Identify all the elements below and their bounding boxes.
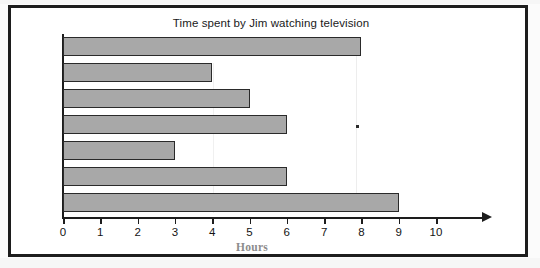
bar-wed xyxy=(63,115,287,134)
x-tick-4 xyxy=(212,218,214,224)
x-tick-1 xyxy=(100,218,102,224)
x-tick-label-2: 2 xyxy=(123,226,153,238)
x-tick-label-5: 5 xyxy=(235,226,265,238)
x-tick-label-4: 4 xyxy=(197,226,227,238)
x-tick-8 xyxy=(361,218,363,224)
bar-row: Wed xyxy=(63,115,287,134)
bar-mon xyxy=(63,63,212,82)
x-tick-label-3: 3 xyxy=(160,226,190,238)
bar-row: Mon xyxy=(63,63,212,82)
x-axis-line xyxy=(62,217,485,219)
bar-row: Thu xyxy=(63,141,175,160)
scan-speck xyxy=(356,125,359,128)
x-tick-label-6: 6 xyxy=(272,226,302,238)
scan-noise-band-top xyxy=(0,0,540,4)
x-tick-label-9: 9 xyxy=(384,226,414,238)
x-tick-label-7: 7 xyxy=(309,226,339,238)
bar-row: Sun xyxy=(63,37,361,56)
scanned-page: Time spent by Jim watching television Su… xyxy=(0,0,540,268)
scan-streak xyxy=(356,38,357,203)
x-tick-2 xyxy=(138,218,140,224)
bar-sat xyxy=(63,193,399,212)
bar-thu xyxy=(63,141,175,160)
bar-fri xyxy=(63,167,287,186)
plot-area: SunMonTueWedThuFriSat 012345678910 Hours xyxy=(11,8,531,260)
scan-streak-secondary xyxy=(213,63,214,213)
bar-row: Tue xyxy=(63,89,250,108)
bar-sun xyxy=(63,37,361,56)
bar-row: Sat xyxy=(63,193,399,212)
x-tick-5 xyxy=(250,218,252,224)
x-axis-title: Hours xyxy=(62,241,442,253)
x-tick-label-8: 8 xyxy=(346,226,376,238)
x-tick-3 xyxy=(175,218,177,224)
bar-row: Fri xyxy=(63,167,287,186)
x-tick-0 xyxy=(63,218,65,224)
bar-tue xyxy=(63,89,250,108)
x-tick-10 xyxy=(436,218,438,224)
x-tick-label-10: 10 xyxy=(421,226,451,238)
x-tick-6 xyxy=(287,218,289,224)
x-tick-label-1: 1 xyxy=(85,226,115,238)
chart-frame: Time spent by Jim watching television Su… xyxy=(8,5,528,257)
x-tick-9 xyxy=(399,218,401,224)
x-tick-7 xyxy=(324,218,326,224)
arrow-right-icon xyxy=(482,212,492,222)
x-tick-label-0: 0 xyxy=(48,226,78,238)
